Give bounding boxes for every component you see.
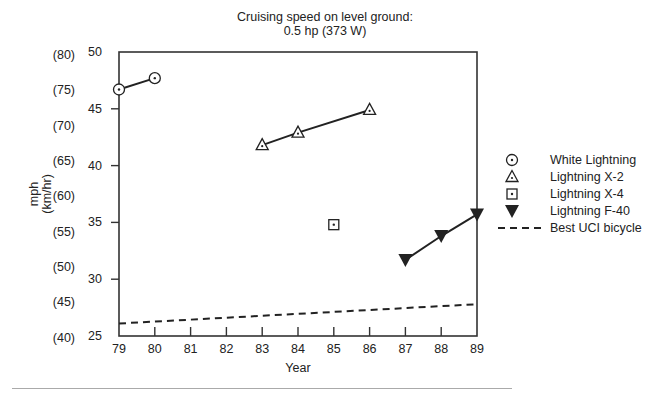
- legend-item: Lightning X-4: [498, 185, 642, 202]
- y-tick-label-kmh: (75): [53, 83, 75, 97]
- legend-item: Best UCI bicycle: [498, 219, 642, 236]
- x-tick-label: 81: [184, 342, 198, 356]
- x-tick-label: 82: [219, 342, 233, 356]
- circle-dot-marker: [149, 73, 160, 84]
- y-tick-label-mph: 35: [88, 215, 102, 229]
- series-line: [262, 110, 369, 145]
- x-tick-label: 79: [112, 342, 126, 356]
- y-tick-label-kmh: (70): [53, 119, 75, 133]
- filled-down-triangle-marker: [434, 230, 448, 243]
- filled-down-triangle-marker: [505, 205, 519, 218]
- square-dot-marker: [329, 220, 339, 230]
- x-tick-label: 83: [255, 342, 269, 356]
- triangle-dot-marker: [364, 103, 376, 114]
- x-tick-label: 85: [327, 342, 341, 356]
- y-tick-label-kmh: (60): [53, 189, 75, 203]
- y-tick-label-mph: 45: [88, 102, 102, 116]
- y-tick-label-kmh: (50): [53, 260, 75, 274]
- y-tick-label-kmh: (65): [53, 154, 75, 168]
- x-tick-label: 86: [363, 342, 377, 356]
- legend-item: Lightning X-2: [498, 168, 642, 185]
- y-tick-label-mph: 30: [88, 272, 102, 286]
- x-tick-label: 80: [148, 342, 162, 356]
- square-dot-marker: [507, 189, 517, 199]
- legend-label: Lightning X-2: [550, 170, 624, 184]
- triangle-dot-icon: [498, 168, 550, 185]
- y-tick-label-kmh: (80): [53, 48, 75, 62]
- y-tick-label-kmh: (45): [53, 295, 75, 309]
- circle-dot-marker: [114, 84, 125, 95]
- y-tick-label-kmh: (40): [53, 331, 75, 345]
- x-tick-label: 89: [470, 342, 484, 356]
- legend-item: White Lightning: [498, 151, 642, 168]
- triangle-dot-marker: [506, 171, 518, 182]
- x-tick-label: 84: [291, 342, 305, 356]
- filled-down-triangle-icon: [498, 202, 550, 219]
- y-axis-label: mph(km/hr): [27, 174, 54, 214]
- circle-dot-marker: [507, 155, 518, 166]
- legend-label: White Lightning: [550, 153, 636, 167]
- legend-item: Lightning F-40: [498, 202, 642, 219]
- x-tick-label: 88: [434, 342, 448, 356]
- x-tick-label: 87: [398, 342, 412, 356]
- y-tick-label-mph: 50: [88, 45, 102, 59]
- y-tick-label-mph: 25: [88, 329, 102, 343]
- series-line: [119, 304, 477, 323]
- y-tick-label-mph: 40: [88, 159, 102, 173]
- y-tick-label-kmh: (55): [53, 225, 75, 239]
- square-dot-icon: [498, 185, 550, 202]
- legend-label: Lightning X-4: [550, 187, 624, 201]
- legend-label: Lightning F-40: [550, 204, 630, 218]
- legend-label: Best UCI bicycle: [550, 221, 642, 235]
- plot-frame: [119, 52, 477, 336]
- chart-legend: White LightningLightning X-2Lightning X-…: [498, 151, 642, 236]
- filled-down-triangle-marker: [470, 208, 484, 221]
- filled-down-triangle-marker: [398, 254, 412, 267]
- circle-dot-icon: [498, 151, 550, 168]
- x-axis-label: Year: [285, 361, 310, 375]
- bottom-divider: [12, 388, 512, 389]
- dashed-line-icon: [498, 219, 550, 236]
